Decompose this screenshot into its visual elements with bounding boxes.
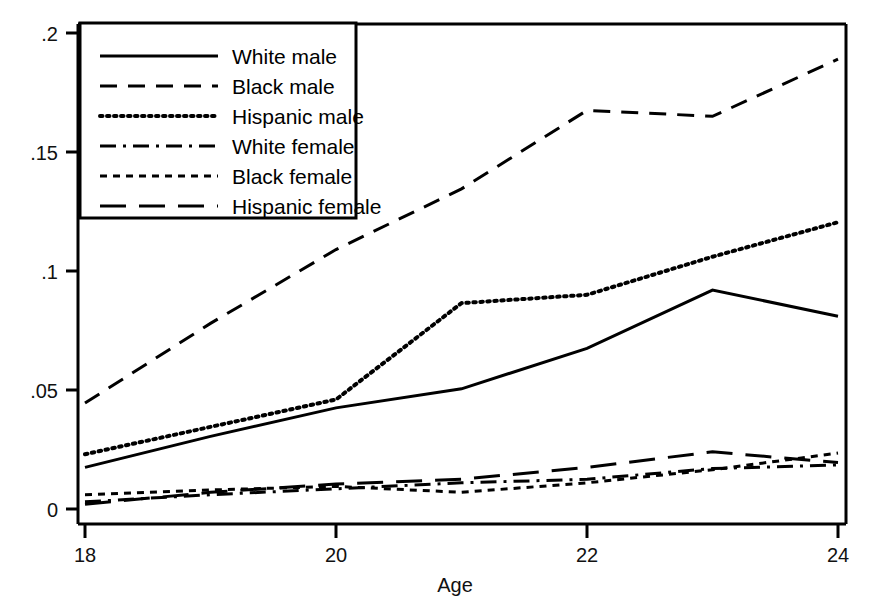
x-tick-label-1: 20: [325, 544, 347, 566]
legend-label-white-female: White female: [232, 135, 355, 158]
legend-label-hispanic-male: Hispanic male: [232, 105, 364, 128]
line-chart: 0 .05 .1 .15 .2 18 20 22 24 Age White ma…: [0, 0, 871, 604]
x-axis-title: Age: [437, 574, 473, 596]
x-tick-label-3: 24: [827, 544, 849, 566]
y-tick-label-4: .2: [41, 23, 58, 45]
y-tick-label-1: .05: [30, 380, 58, 402]
x-tick-label-2: 22: [576, 544, 598, 566]
y-tick-label-0: 0: [47, 499, 58, 521]
y-tick-label-3: .15: [30, 142, 58, 164]
x-tick-label-0: 18: [74, 544, 96, 566]
legend-label-white-male: White male: [232, 45, 337, 68]
legend-label-hispanic-female: Hispanic female: [232, 195, 381, 218]
chart-legend: White maleBlack maleHispanic maleWhite f…: [80, 23, 381, 218]
chart-figure: 0 .05 .1 .15 .2 18 20 22 24 Age White ma…: [0, 0, 871, 604]
legend-label-black-male: Black male: [232, 75, 335, 98]
legend-label-black-female: Black female: [232, 165, 352, 188]
y-tick-label-2: .1: [41, 261, 58, 283]
